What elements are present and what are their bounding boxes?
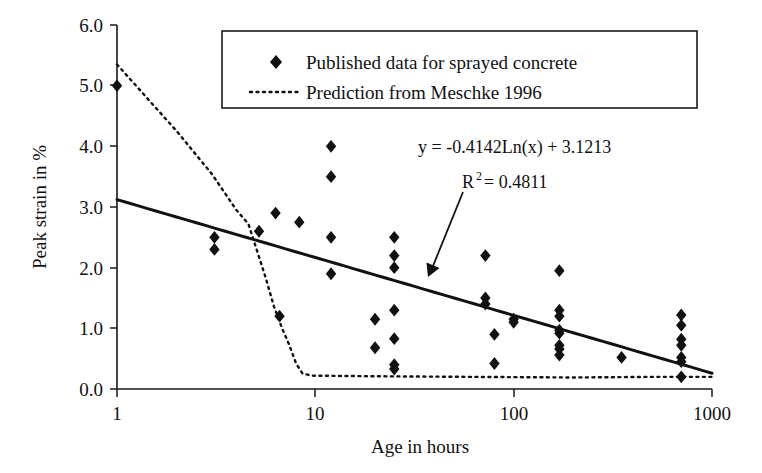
y-tick-label-4: 4.0 <box>79 136 103 157</box>
y-tick-label-0: 0.0 <box>79 379 103 400</box>
data-point <box>209 231 219 244</box>
data-point <box>554 264 564 277</box>
data-point <box>209 243 219 256</box>
y-axis-tick-labels: 6.0 5.0 4.0 3.0 2.0 1.0 0.0 <box>79 15 103 400</box>
prediction-curve <box>117 64 712 377</box>
x-axis-ticks <box>117 389 712 397</box>
legend: Published data for sprayed concrete Pred… <box>222 31 697 108</box>
y-tick-label-1: 1.0 <box>79 318 103 339</box>
data-point <box>112 79 122 92</box>
data-point <box>389 304 399 317</box>
data-point <box>389 249 399 262</box>
data-point <box>326 140 336 153</box>
y-axis-title: Peak strain in % <box>29 145 50 269</box>
data-points-group <box>112 79 687 383</box>
data-point <box>370 313 380 326</box>
r-squared-exponent: 2 <box>476 169 482 183</box>
x-axis-title: Age in hours <box>371 436 469 457</box>
data-point <box>389 231 399 244</box>
x-tick-label-1000: 1000 <box>693 403 731 424</box>
data-point <box>489 357 499 370</box>
x-tick-label-1: 1 <box>112 403 122 424</box>
y-axis-ticks <box>110 25 117 389</box>
x-axis-tick-labels: 1 10 100 1000 <box>112 403 731 424</box>
y-tick-label-6: 6.0 <box>79 15 103 36</box>
data-point <box>389 261 399 274</box>
data-point <box>616 351 626 364</box>
trendline <box>117 200 712 374</box>
y-tick-label-2: 2.0 <box>79 258 103 279</box>
data-point <box>480 249 490 262</box>
data-point <box>270 207 280 220</box>
r-squared-value: = 0.4811 <box>484 172 547 192</box>
equation-annotation: y = -0.4142Ln(x) + 3.1213 <box>418 137 611 158</box>
data-point <box>254 225 264 238</box>
legend-item-prediction: Prediction from Meschke 1996 <box>306 82 542 103</box>
scatter-plot: 6.0 5.0 4.0 3.0 2.0 1.0 0.0 1 10 100 100… <box>0 0 762 473</box>
data-point <box>676 319 686 332</box>
data-point <box>676 370 686 383</box>
data-point <box>389 332 399 345</box>
r-squared-label: R <box>462 172 474 192</box>
x-tick-label-100: 100 <box>500 403 529 424</box>
data-point <box>489 328 499 341</box>
legend-item-published-data: Published data for sprayed concrete <box>306 52 577 73</box>
x-tick-label-10: 10 <box>306 403 325 424</box>
y-tick-label-3: 3.0 <box>79 197 103 218</box>
data-point <box>294 216 304 229</box>
data-point <box>370 341 380 354</box>
r-squared-annotation: R 2 = 0.4811 <box>462 169 547 192</box>
y-tick-label-5: 5.0 <box>79 75 103 96</box>
data-point <box>326 170 336 183</box>
annotation-arrow-icon <box>427 192 464 277</box>
data-point <box>326 231 336 244</box>
chart-figure: 6.0 5.0 4.0 3.0 2.0 1.0 0.0 1 10 100 100… <box>0 0 762 473</box>
data-point <box>326 267 336 280</box>
